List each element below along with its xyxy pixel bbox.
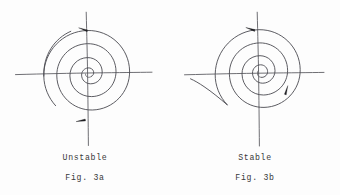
figure-unstable: Unstable Fig. 3a [0,0,170,195]
caption-title-stable: Stable [170,154,340,163]
caption-unstable: Unstable Fig. 3a [0,150,170,182]
arrow-right-icon [284,86,287,95]
spiral-center-tail-stable [257,71,262,78]
caption-figure-number-unstable: Fig. 3a [0,174,170,183]
caption-figure-number-stable: Fig. 3b [170,174,340,183]
spiral-outer-tail-stable [191,79,228,105]
phase-portrait-unstable [0,0,170,150]
figure-stable: Stable Fig. 3b [170,0,340,195]
spiral-center-tail-unstable [85,74,91,77]
y-axis [257,12,259,146]
phase-portrait-stable [170,0,340,150]
caption-title-unstable: Unstable [0,154,170,163]
y-axis [86,12,88,145]
figure-page: Unstable Fig. 3a [0,0,340,195]
caption-stable: Stable Fig. 3b [170,150,340,182]
arrow-bottom-icon [76,119,86,122]
x-axis [185,72,325,74]
x-axis [16,72,153,74]
